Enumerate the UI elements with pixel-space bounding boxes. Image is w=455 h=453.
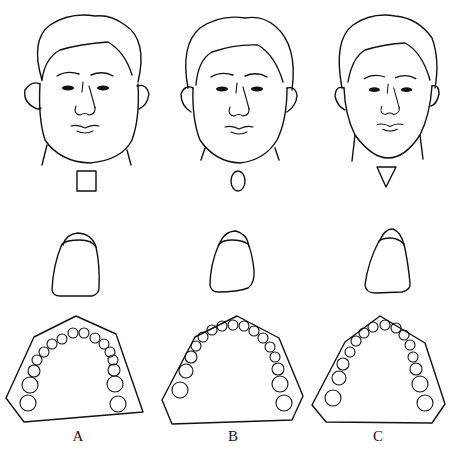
label-b: B [228,428,238,445]
arch-b-ovoid [162,316,303,424]
face-tooth-arch-diagram [0,0,455,453]
triangle-symbol [377,167,396,187]
label-c: C [373,428,383,445]
arch-a-square [6,316,143,422]
tooth-a-square [52,233,99,296]
face-b-ovoid [181,17,297,163]
arch-c-tapering [312,316,445,423]
label-a: A [73,428,84,445]
square-symbol [77,171,96,191]
oval-symbol [231,171,245,191]
face-c-tapering [335,15,439,161]
tooth-c-tapering [365,229,410,293]
face-a-square [25,15,149,165]
tooth-b-ovoid [210,231,254,292]
